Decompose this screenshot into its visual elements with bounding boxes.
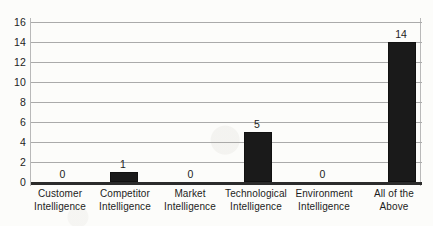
- category-line-1: Competitor: [91, 188, 159, 201]
- category-line-2: Intelligence: [91, 201, 159, 214]
- y-axis-label-8: 8: [2, 97, 26, 108]
- bar-value-market-intelligence: 0: [158, 169, 223, 180]
- category-line-2: Intelligence: [26, 201, 94, 214]
- y-axis-label-0: 0: [2, 177, 26, 188]
- category-line-1: Customer: [26, 188, 94, 201]
- category-line-1: Technological: [220, 188, 292, 201]
- gridline-10: [31, 82, 422, 83]
- gridline-14: [31, 42, 422, 43]
- category-line-1: All of the: [360, 188, 428, 201]
- category-label-environment-intelligence: Environment Intelligence: [288, 188, 360, 213]
- category-label-competitor-intelligence: Competitor Intelligence: [91, 188, 159, 213]
- gridline-12: [31, 62, 422, 63]
- bar-chart: 16 14 12 10 8 6 4 2 0 0 1 0 5 0 14 Custo…: [0, 0, 433, 226]
- y-axis-label-4: 4: [2, 137, 26, 148]
- y-axis-label-12: 12: [2, 57, 26, 68]
- gridline-6: [31, 122, 422, 123]
- y-axis-label-6: 6: [2, 117, 26, 128]
- bar-value-customer-intelligence: 0: [30, 169, 95, 180]
- bar-value-all-of-the-above: 14: [372, 29, 430, 40]
- category-label-technological-intelligence: Technological Intelligence: [220, 188, 292, 213]
- bar-value-competitor-intelligence: 1: [94, 159, 152, 170]
- y-axis-label-2: 2: [2, 157, 26, 168]
- gridline-8: [31, 102, 422, 103]
- category-line-2: Above: [360, 201, 428, 214]
- category-label-all-of-the-above: All of the Above: [360, 188, 428, 213]
- category-line-1: Environment: [288, 188, 360, 201]
- x-axis-baseline: [31, 182, 422, 185]
- category-label-market-intelligence: Market Intelligence: [156, 188, 224, 213]
- y-axis-label-10: 10: [2, 77, 26, 88]
- gridline-2: [31, 162, 422, 163]
- y-axis-label-14: 14: [2, 37, 26, 48]
- category-line-2: Intelligence: [156, 201, 224, 214]
- plot-area: [30, 18, 421, 186]
- bar-competitor-intelligence: [110, 172, 138, 182]
- bar-all-of-the-above: [388, 42, 416, 182]
- bar-value-technological-intelligence: 5: [228, 119, 286, 130]
- bar-value-environment-intelligence: 0: [290, 169, 355, 180]
- category-line-2: Intelligence: [288, 201, 360, 214]
- gridline-16: [31, 22, 422, 23]
- category-line-2: Intelligence: [220, 201, 292, 214]
- bar-technological-intelligence: [244, 132, 272, 182]
- y-axis-label-16: 16: [2, 17, 26, 28]
- category-line-1: Market: [156, 188, 224, 201]
- gridline-4: [31, 142, 422, 143]
- category-label-customer-intelligence: Customer Intelligence: [26, 188, 94, 213]
